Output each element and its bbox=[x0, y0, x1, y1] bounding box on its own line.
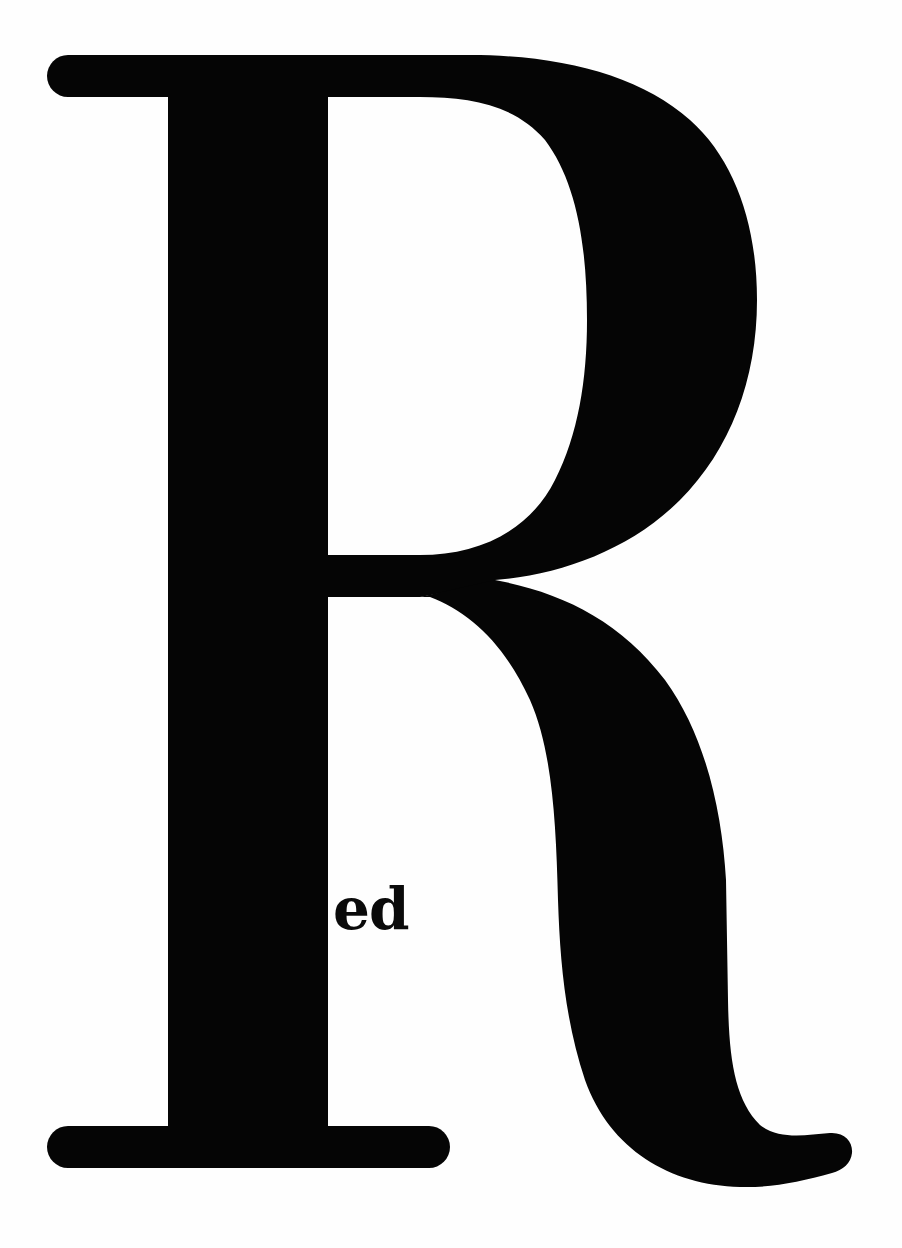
large-letter-r-glyph bbox=[0, 0, 902, 1248]
leg bbox=[420, 580, 852, 1187]
caption-text: ed bbox=[333, 880, 408, 938]
stem bbox=[168, 55, 328, 1168]
bowl bbox=[300, 55, 757, 597]
typographic-poster: ed bbox=[0, 0, 902, 1248]
